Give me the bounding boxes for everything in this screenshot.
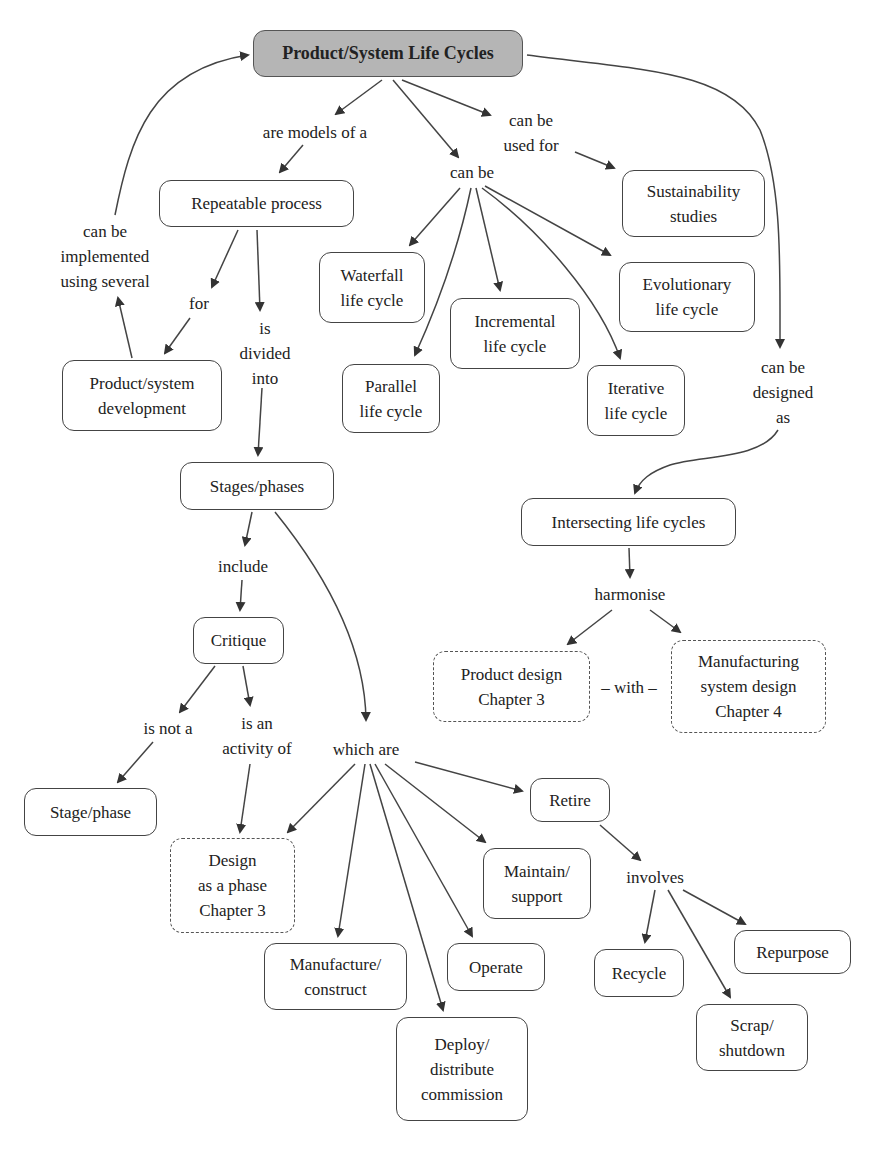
node-design-as-a-phase[interactable]: Design as a phase Chapter 3 — [170, 838, 295, 933]
node-waterfall[interactable]: Waterfall life cycle — [319, 252, 425, 323]
node-evolutionary[interactable]: Evolutionary life cycle — [619, 262, 755, 332]
node-maintain-support[interactable]: Maintain/ support — [483, 848, 591, 919]
node-stages-phases[interactable]: Stages/phases — [180, 462, 334, 510]
node-deploy-distribute-commission[interactable]: Deploy/ distribute commission — [396, 1017, 528, 1121]
node-product-system-development[interactable]: Product/system development — [62, 360, 222, 431]
link-label-for: for — [189, 291, 209, 316]
node-intersecting-life-cycles[interactable]: Intersecting life cycles — [521, 498, 736, 546]
node-critique[interactable]: Critique — [193, 617, 284, 664]
node-parallel[interactable]: Parallel life cycle — [342, 364, 440, 433]
node-operate[interactable]: Operate — [447, 943, 545, 991]
arrow-root-to-models — [336, 80, 382, 114]
node-repeatable-process[interactable]: Repeatable process — [159, 180, 354, 227]
link-label-can-be-implemented: can be implemented using several — [60, 219, 149, 294]
node-incremental[interactable]: Incremental life cycle — [450, 298, 580, 369]
node-manufacture-construct[interactable]: Manufacture/ construct — [264, 943, 407, 1010]
link-label-involves: involves — [626, 865, 684, 890]
link-label-include: include — [218, 554, 268, 579]
link-label-is-an-activity-of: is an activity of — [222, 711, 291, 761]
node-repurpose[interactable]: Repurpose — [734, 930, 851, 974]
node-root[interactable]: Product/System Life Cycles — [253, 30, 523, 77]
link-label-harmonise: harmonise — [595, 582, 666, 607]
link-label-can-be-used-for: can be used for — [503, 108, 558, 158]
node-sustainability-studies[interactable]: Sustainability studies — [622, 170, 765, 237]
node-retire[interactable]: Retire — [530, 778, 610, 822]
link-label-is-not-a: is not a — [143, 716, 192, 741]
link-label-are-models-of-a: are models of a — [263, 120, 367, 145]
concept-map: Product/System Life Cycles Repeatable pr… — [0, 0, 874, 1150]
link-label-can-be: can be — [450, 160, 494, 185]
node-scrap-shutdown[interactable]: Scrap/ shutdown — [696, 1004, 808, 1071]
node-product-design-chapter-3[interactable]: Product design Chapter 3 — [433, 651, 590, 722]
link-label-is-divided-into: is divided into — [240, 316, 291, 391]
link-label-with: – with – — [601, 675, 657, 700]
node-stage-phase[interactable]: Stage/phase — [24, 788, 157, 836]
link-label-which-are: which are — [333, 737, 400, 762]
node-recycle[interactable]: Recycle — [594, 949, 684, 997]
link-label-can-be-designed-as: can be designed as — [753, 355, 813, 430]
node-iterative[interactable]: Iterative life cycle — [587, 365, 685, 436]
node-manufacturing-system-design-chapter-4[interactable]: Manufacturing system design Chapter 4 — [671, 640, 826, 733]
